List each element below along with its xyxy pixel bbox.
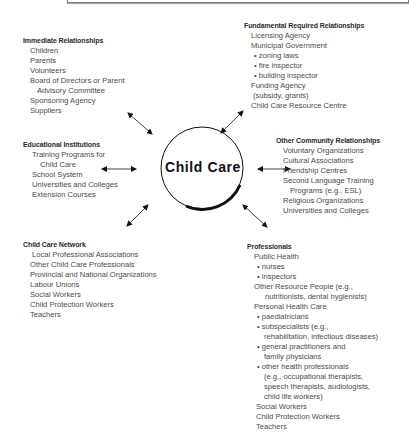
- list-item: Programs (e.g., ESL): [276, 186, 389, 196]
- list-item: child life workers): [247, 392, 378, 402]
- list-item: Local Professional Associations: [23, 250, 157, 260]
- list-item: Religious Organizations: [276, 196, 389, 206]
- group-other-community-relationships: Other Community Relationships Voluntary …: [276, 136, 389, 216]
- list-item: speech therapists, audiologists,: [247, 382, 378, 392]
- group-fundamental-required-relationships: Fundamental Required Relationships Licen…: [244, 21, 375, 111]
- list-item: Teachers: [247, 422, 378, 432]
- list-item: Extension Courses: [23, 190, 118, 200]
- bullet-item: subspecialists (e.g.,: [247, 322, 378, 332]
- arrow-fundamental-icon: [221, 111, 243, 133]
- group-title: Fundamental Required Relationships: [244, 21, 364, 31]
- list-item: Second Language Training: [276, 176, 389, 186]
- arrow-professionals-icon: [243, 205, 267, 227]
- group-educational-institutions: Educational Institutions Training Progra…: [23, 140, 118, 200]
- group-title: Immediate Relationships: [23, 36, 116, 46]
- list-item: Teachers: [23, 310, 157, 320]
- list-item: Other Resource People (e.g.,: [247, 282, 378, 292]
- list-item: (e.g., occupational therapists,: [247, 372, 378, 382]
- group-professionals: Professionals Public Health nurses inspe…: [247, 242, 378, 432]
- list-item: School System: [23, 170, 118, 180]
- list-item: Child Care Resource Centre: [244, 101, 375, 111]
- list-item: Children: [23, 46, 125, 56]
- list-item: Sponsoring Agency: [23, 96, 125, 106]
- bullet-item: nurses: [247, 262, 378, 272]
- list-item: Universities and Colleges: [276, 206, 389, 216]
- list-item: (subsidy, grants): [244, 91, 375, 101]
- list-item: Cultural Associations: [276, 156, 389, 166]
- list-item: Social Workers: [23, 290, 157, 300]
- list-item: nutritionists, dental hygienists): [247, 292, 378, 302]
- arrow-immediate-icon: [128, 113, 152, 134]
- list-item: Parents: [23, 56, 125, 66]
- center-label: Child Care: [162, 159, 244, 175]
- list-item: family physicians: [247, 352, 378, 362]
- bullet-item: other health professionals: [247, 362, 378, 372]
- list-item: Voluntary Organizations: [276, 146, 389, 156]
- list-item: Board of Directors or Parent: [23, 76, 125, 86]
- list-item: Child Protection Workers: [23, 300, 157, 310]
- group-immediate-relationships: Immediate Relationships Children Parents…: [23, 36, 125, 116]
- list-item: Child Care: [23, 160, 118, 170]
- group-title: Other Community Relationships: [276, 136, 380, 146]
- list-item: Other Child Care Professionals: [23, 260, 157, 270]
- list-item: Volunteers: [23, 66, 125, 76]
- bullet-item: zoning laws: [244, 51, 375, 61]
- list-item: Child Protection Workers: [247, 412, 378, 422]
- group-title: Child Care Network: [23, 240, 146, 250]
- list-item: Social Workers: [247, 402, 378, 412]
- list-item: Municipal Government: [244, 41, 375, 51]
- bullet-item: building inspector: [244, 71, 375, 81]
- list-item: Labour Unions: [23, 280, 157, 290]
- list-item: Public Health: [247, 252, 378, 262]
- list-item: rehabilitation, infectious diseases): [247, 332, 378, 342]
- list-item: Universities and Colleges: [23, 180, 118, 190]
- list-item: Provincial and National Organizations: [23, 270, 157, 280]
- bullet-item: general practitioners and: [247, 342, 378, 352]
- arrow-network-icon: [127, 205, 148, 226]
- list-item: Funding Agency: [244, 81, 375, 91]
- list-item: Friendship Centres: [276, 166, 389, 176]
- bullet-item: inspectors: [247, 272, 378, 282]
- group-title: Professionals: [247, 242, 368, 252]
- list-item: Training Programs for: [23, 150, 118, 160]
- list-item: Personal Health Care: [247, 302, 378, 312]
- group-title: Educational Institutions: [23, 140, 110, 150]
- list-item: Advisory Committee: [23, 86, 125, 96]
- group-child-care-network: Child Care Network Local Professional As…: [23, 240, 157, 320]
- list-item: Licensing Agency: [244, 31, 375, 41]
- bullet-item: paediatricians: [247, 312, 378, 322]
- bullet-item: fire inspector: [244, 61, 375, 71]
- list-item: Suppliers: [23, 106, 125, 116]
